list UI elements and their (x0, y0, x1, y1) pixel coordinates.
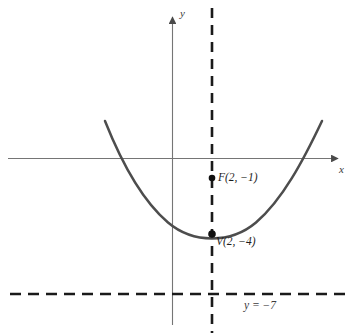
vertex-label: V(2, −4) (216, 236, 256, 248)
focus-label: F(2, −1) (218, 172, 258, 184)
y-axis-label: y (180, 8, 185, 19)
parabola-figure: y x F(2, −1) V(2, −4) y = −7 (0, 0, 354, 335)
vertex-point (208, 230, 216, 238)
x-axis-label: x (339, 164, 344, 175)
directrix-label: y = −7 (244, 300, 276, 312)
figure-canvas (0, 0, 354, 335)
focus-point (209, 175, 216, 182)
